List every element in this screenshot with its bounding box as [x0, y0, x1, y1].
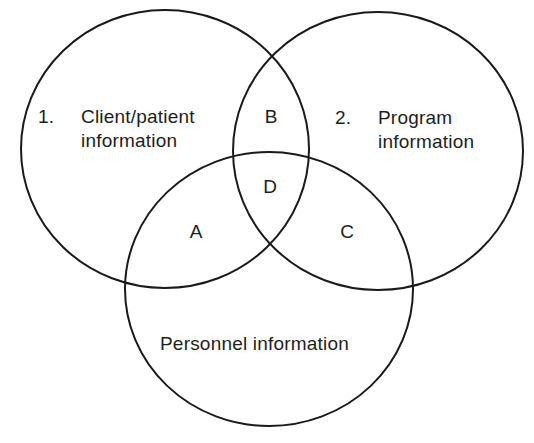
- set-client-patient-label: 1. Client/patient information: [38, 106, 195, 151]
- region-a-label: A: [190, 221, 203, 242]
- region-c-label: C: [340, 221, 354, 242]
- set-client-patient-title-line1: Client/patient: [81, 106, 195, 127]
- set-program-label: 2. Program information: [335, 107, 474, 152]
- set-client-patient-title-line2: information: [81, 130, 177, 151]
- set-program-title-line2: information: [378, 131, 474, 152]
- set-program-number: 2.: [335, 107, 351, 128]
- set-program-title-line1: Program: [378, 107, 452, 128]
- set-client-patient-number: 1.: [38, 106, 54, 127]
- set-personnel-title: Personnel information: [160, 333, 349, 354]
- region-d-label: D: [263, 176, 277, 197]
- region-b-label: B: [265, 106, 278, 127]
- venn-diagram: 1. Client/patient information 2. Program…: [0, 0, 534, 443]
